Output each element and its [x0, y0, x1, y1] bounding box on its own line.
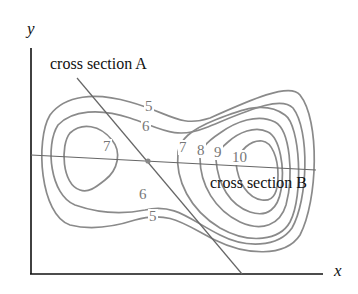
cross-section-b-label: cross section B [210, 175, 307, 191]
contour-label-8: 8 [196, 143, 206, 158]
contour-label-6-lower: 6 [138, 187, 148, 202]
contour-label-7-right: 7 [178, 140, 188, 155]
y-axis-label: y [27, 20, 35, 37]
contour-label-10: 10 [231, 150, 248, 165]
contour-label-9: 9 [213, 145, 223, 160]
cross-section-b-line [31, 155, 316, 170]
contour-label-5-lower: 5 [148, 209, 158, 224]
contour-label-7-left: 7 [102, 139, 112, 154]
x-axis-label: x [334, 262, 342, 279]
contour-9 [216, 129, 282, 213]
contour-diagram: y x cross section A cross section B 5 6 … [0, 0, 358, 294]
contour-label-5-upper: 5 [144, 99, 154, 114]
contour-lines [42, 91, 314, 252]
intersection-point [145, 158, 150, 163]
contour-label-6-upper: 6 [141, 119, 151, 134]
cross-section-a-label: cross section A [50, 56, 147, 72]
